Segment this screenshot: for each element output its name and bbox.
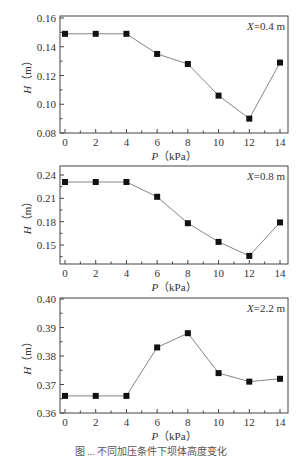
y-tick-label: 0.15	[37, 239, 57, 251]
x-tick-label: 8	[185, 416, 191, 428]
position-annotation: X=0.8 m	[246, 170, 285, 182]
y-tick-label: 0.38	[37, 350, 57, 362]
data-point-marker	[154, 194, 160, 200]
figure: 0.080.100.120.140.1602468101214P（kPa）H（m…	[0, 0, 302, 457]
data-point-marker	[123, 393, 129, 399]
y-tick-label: 0.10	[37, 98, 57, 110]
x-tick-label: 14	[275, 416, 287, 428]
x-tick-label: 10	[213, 267, 225, 279]
data-point-marker	[62, 179, 68, 185]
chart-panel-x-2.2: 0.360.370.380.390.4002468101214P（kPa）H（m…	[21, 293, 288, 442]
chart-panel-x-0.4: 0.080.100.120.140.1602468101214P（kPa）H（m…	[21, 12, 288, 162]
x-tick-label: 0	[62, 267, 68, 279]
data-point-marker	[93, 31, 99, 37]
y-tick-label: 0.36	[37, 407, 57, 419]
data-point-marker	[216, 93, 222, 99]
y-tick-label: 0.18	[37, 216, 57, 228]
chart-panel-x-0.8: 0.150.180.210.2402468101214P（kPa）H（m）X=0…	[21, 166, 288, 293]
series-line	[65, 182, 280, 256]
y-tick-label: 0.16	[37, 12, 57, 24]
x-tick-label: 6	[154, 267, 160, 279]
figure-caption: 图 ... 不同加压条件下坝体高度变化	[75, 445, 228, 457]
position-annotation: X=2.2 m	[246, 302, 285, 314]
position-annotation: X=0.4 m	[246, 20, 285, 32]
data-point-marker	[62, 31, 68, 37]
y-axis-label: H（m）	[21, 336, 33, 376]
y-tick-label: 0.12	[37, 70, 56, 82]
y-tick-label: 0.14	[37, 41, 57, 53]
x-tick-label: 4	[124, 136, 130, 148]
x-tick-label: 12	[244, 416, 255, 428]
x-tick-label: 8	[185, 136, 191, 148]
y-tick-label: 0.21	[37, 192, 56, 204]
data-point-marker	[185, 220, 191, 226]
x-tick-label: 12	[244, 136, 255, 148]
x-tick-label: 0	[62, 136, 68, 148]
data-point-marker	[246, 253, 252, 259]
x-tick-label: 2	[93, 267, 99, 279]
x-tick-label: 14	[275, 267, 287, 279]
data-point-marker	[185, 330, 191, 336]
data-point-marker	[93, 393, 99, 399]
x-axis-label: P（kPa）	[150, 430, 196, 442]
x-tick-label: 10	[213, 136, 225, 148]
data-point-marker	[62, 393, 68, 399]
data-point-marker	[123, 31, 129, 37]
data-point-marker	[246, 116, 252, 122]
y-tick-label: 0.08	[37, 127, 57, 139]
data-point-marker	[154, 344, 160, 350]
data-point-marker	[277, 60, 283, 66]
data-point-marker	[216, 370, 222, 376]
y-tick-label: 0.37	[37, 379, 57, 391]
x-tick-label: 14	[275, 136, 287, 148]
y-tick-label: 0.24	[37, 169, 57, 181]
x-tick-label: 0	[62, 416, 68, 428]
data-point-marker	[154, 51, 160, 57]
x-tick-label: 6	[154, 416, 160, 428]
x-tick-label: 4	[124, 416, 130, 428]
data-point-marker	[185, 61, 191, 67]
x-axis-label: P（kPa）	[150, 281, 196, 293]
x-tick-label: 2	[93, 416, 99, 428]
x-tick-label: 2	[93, 136, 99, 148]
data-point-marker	[123, 179, 129, 185]
x-tick-label: 8	[185, 267, 191, 279]
x-tick-label: 10	[213, 416, 225, 428]
y-axis-label: H（m）	[21, 55, 33, 95]
x-axis-label: P（kPa）	[150, 150, 196, 162]
data-point-marker	[93, 179, 99, 185]
x-tick-label: 6	[154, 136, 160, 148]
series-line	[65, 34, 280, 119]
data-point-marker	[246, 379, 252, 385]
data-point-marker	[216, 239, 222, 245]
data-point-marker	[277, 219, 283, 225]
series-line	[65, 333, 280, 396]
data-point-marker	[277, 376, 283, 382]
y-axis-label: H（m）	[21, 196, 33, 236]
x-tick-label: 12	[244, 267, 255, 279]
y-tick-label: 0.40	[37, 293, 57, 305]
y-tick-label: 0.39	[37, 322, 57, 334]
x-tick-label: 4	[124, 267, 130, 279]
